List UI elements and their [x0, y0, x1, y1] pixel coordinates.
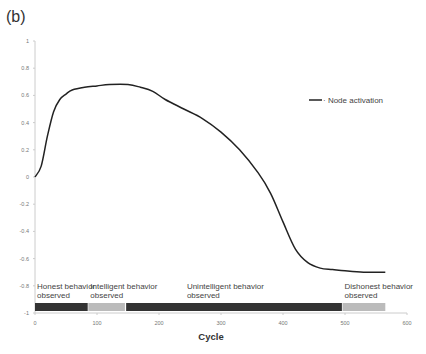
behavior-label: observed: [90, 291, 123, 300]
behavior-label: Dishonest behavior: [345, 282, 414, 291]
legend-label: · Node activation: [323, 96, 383, 105]
behavior-label: Intelligent behavior: [90, 282, 157, 291]
behavior-label: observed: [187, 291, 220, 300]
x-tick-label: 400: [278, 320, 287, 326]
behavior-label: observed: [345, 291, 378, 300]
behavior-bar-3: [343, 303, 386, 311]
x-tick-label: 500: [340, 320, 349, 326]
x-tick-label: 600: [402, 320, 411, 326]
x-axis-label: Cycle: [198, 331, 223, 342]
behavior-bar-2: [126, 303, 342, 311]
behavior-label: Unintelligent behavior: [187, 282, 264, 291]
y-tick-label: 0.2: [21, 147, 29, 153]
x-tick-label: 200: [154, 320, 163, 326]
y-tick-label: -0.8: [20, 283, 29, 289]
y-tick-label: 0.4: [21, 120, 29, 126]
x-tick-label: 0: [33, 320, 36, 326]
y-tick-label: -1: [24, 310, 29, 316]
y-tick-label: 0.6: [21, 92, 29, 98]
x-tick-label: 100: [92, 320, 101, 326]
y-tick-label: -0.4: [20, 228, 29, 234]
behavior-bar-0: [35, 303, 88, 311]
behavior-label: observed: [37, 291, 70, 300]
y-tick-label: 1: [26, 38, 29, 44]
node-activation-line: [35, 84, 385, 272]
x-tick-label: 300: [216, 320, 225, 326]
y-tick-label: -0.2: [20, 201, 29, 207]
y-tick-label: 0.8: [21, 65, 29, 71]
line-chart: 10.80.60.40.20-0.2-0.4-0.6-0.8-101002003…: [0, 0, 426, 354]
y-tick-label: 0: [26, 174, 29, 180]
y-tick-label: -0.6: [20, 256, 29, 262]
behavior-bar-1: [88, 303, 125, 311]
behavior-label: Honest behavior: [37, 282, 96, 291]
